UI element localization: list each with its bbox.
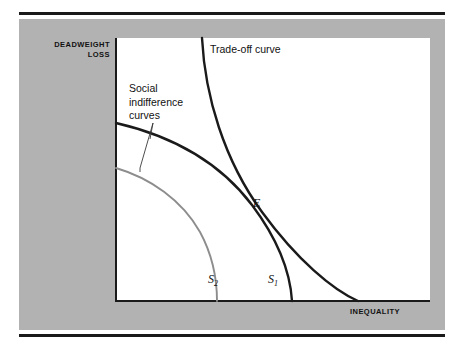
y-axis-label: DEADWEIGHT LOSS (36, 40, 110, 60)
curve-s2 (116, 168, 217, 301)
curve-label-s2: S2 (208, 272, 218, 288)
curve-tradeoff (202, 38, 358, 301)
social-indifference-curves-label: Social indifference curves (129, 82, 195, 123)
tradeoff-curve-label: Trade-off curve (210, 43, 281, 57)
curve-label-s1-subscript: 1 (274, 279, 278, 288)
social-indifference-curves-text: Social indifference curves (129, 82, 183, 121)
figure-root: DEADWEIGHT LOSS INEQUALITY Trade-off cur… (0, 0, 464, 350)
curve-label-s2-subscript: 2 (214, 279, 218, 288)
curve-label-s1: S1 (268, 272, 278, 288)
x-axis-label: INEQUALITY (350, 307, 430, 317)
equilibrium-point-label: E (253, 196, 260, 211)
curve-s1 (116, 123, 292, 301)
